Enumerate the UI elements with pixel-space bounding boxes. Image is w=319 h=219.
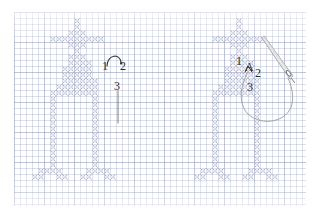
stitch-centre xyxy=(214,170,216,172)
stitch-centre xyxy=(256,38,258,40)
stitch-centre xyxy=(244,176,246,178)
stitch-centre xyxy=(214,92,216,94)
stitch-centre xyxy=(238,26,240,28)
stitch-centre xyxy=(244,44,246,46)
stitch-centre xyxy=(226,80,228,82)
stitch-centre xyxy=(238,68,240,70)
stitch-centre xyxy=(256,164,258,166)
stitch-centre xyxy=(244,32,246,34)
stitch-centre xyxy=(244,56,246,58)
stitch-centre xyxy=(214,140,216,142)
stitch-centre xyxy=(220,92,222,94)
stitch-centre xyxy=(238,92,240,94)
stitch-centre xyxy=(202,176,204,178)
stitch-centre xyxy=(220,176,222,178)
stitch-centre xyxy=(256,80,258,82)
stitch-centre xyxy=(256,98,258,100)
stitch-centre xyxy=(244,92,246,94)
right-stitch-layer xyxy=(0,0,319,219)
label-2-right: 2 xyxy=(255,67,261,79)
diagram-canvas: 1 2 3 1 A 2 3 xyxy=(0,0,319,219)
stitch-centre xyxy=(238,50,240,52)
stitch-centre xyxy=(256,110,258,112)
stitch-centre xyxy=(214,110,216,112)
stitch-centre xyxy=(214,152,216,154)
stitch-centre xyxy=(232,92,234,94)
stitch-centre xyxy=(256,92,258,94)
stitch-centre xyxy=(232,56,234,58)
stitch-centre xyxy=(256,170,258,172)
stitch-centre xyxy=(256,158,258,160)
stitch-centre xyxy=(256,104,258,106)
needle-eye xyxy=(285,70,292,77)
stitch-centre xyxy=(250,38,252,40)
stitch-centre xyxy=(232,38,234,40)
stitch-centre xyxy=(238,74,240,76)
stitch-centre xyxy=(256,116,258,118)
stitch-centre xyxy=(262,170,264,172)
stitch-centre xyxy=(214,122,216,124)
stitch-centre xyxy=(226,74,228,76)
stitch-centre xyxy=(232,68,234,70)
stitch-centre xyxy=(256,152,258,154)
stitch-centre xyxy=(226,176,228,178)
stitch-centre xyxy=(256,134,258,136)
stitch-centre xyxy=(226,38,228,40)
stitch-centre xyxy=(244,38,246,40)
stitch-centre xyxy=(250,176,252,178)
stitch-centre xyxy=(214,116,216,118)
label-1-right: 1 xyxy=(236,55,242,67)
right-panel: 1 A 2 3 xyxy=(0,0,319,219)
stitch-centre xyxy=(232,80,234,82)
stitch-centre xyxy=(220,38,222,40)
stitch-centre xyxy=(232,74,234,76)
stitch-centre xyxy=(256,146,258,148)
stitch-centre xyxy=(250,74,252,76)
needle-tip xyxy=(292,79,295,83)
stitch-centre xyxy=(214,98,216,100)
stitch-centre xyxy=(232,44,234,46)
stitch-centre xyxy=(256,140,258,142)
stitch-centre xyxy=(226,86,228,88)
stitch-centre xyxy=(238,38,240,40)
stitch-centre xyxy=(238,80,240,82)
stitch-centre xyxy=(226,68,228,70)
stitch-centre xyxy=(238,86,240,88)
stitch-centre xyxy=(220,170,222,172)
stitch-centre xyxy=(250,170,252,172)
stitch-centre xyxy=(214,128,216,130)
stitch-centre xyxy=(232,32,234,34)
stitch-centre xyxy=(214,146,216,148)
sewing-needle xyxy=(262,36,295,83)
stitch-centre xyxy=(214,164,216,166)
stitch-centre xyxy=(226,92,228,94)
stitch-centre xyxy=(214,38,216,40)
stitch-centre xyxy=(232,62,234,64)
stitch-centre xyxy=(238,32,240,34)
stitch-centre xyxy=(232,86,234,88)
stitch-centre xyxy=(208,170,210,172)
stitch-centre xyxy=(214,104,216,106)
stitch-centre xyxy=(202,170,204,172)
stitch-centre xyxy=(256,128,258,130)
stitch-centre xyxy=(238,20,240,22)
stitch-centre xyxy=(274,176,276,178)
stitch-centre xyxy=(256,122,258,124)
stitch-centre xyxy=(256,86,258,88)
stitch-centre xyxy=(220,86,222,88)
stitch-centre xyxy=(214,134,216,136)
stitch-centre xyxy=(238,44,240,46)
stitch-centre xyxy=(268,170,270,172)
label-A-right: A xyxy=(245,61,254,73)
stitch-centre xyxy=(244,86,246,88)
stitch-centre xyxy=(214,158,216,160)
label-3-right: 3 xyxy=(247,81,253,93)
stitch-centre xyxy=(196,176,198,178)
stitch-centre xyxy=(268,176,270,178)
